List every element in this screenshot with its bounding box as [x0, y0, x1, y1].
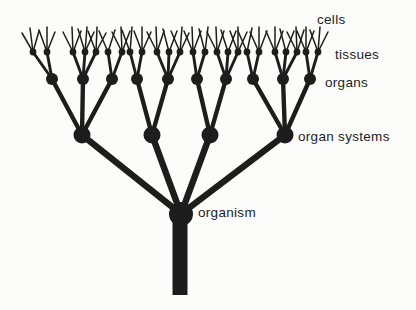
- edge-system-to-organ: [82, 79, 112, 135]
- edge-tissue-to-cell: [78, 29, 85, 52]
- label-organism: organism: [198, 205, 256, 220]
- edge-system-to-organ: [137, 79, 152, 135]
- label-organ-systems: organ systems: [298, 129, 390, 144]
- organ-system-node: [74, 127, 91, 144]
- biological-organization-figure: cells tissues organs organ systems organ…: [0, 0, 416, 310]
- tissue-node: [177, 49, 184, 56]
- tissue-node: [190, 49, 197, 56]
- tissue-node: [303, 49, 310, 56]
- edge-tissue-to-cell: [221, 30, 228, 52]
- organism-node: [169, 202, 193, 226]
- edge-system-to-organ: [253, 79, 285, 135]
- edge-tissue-to-cell: [96, 27, 97, 52]
- edge-system-to-organ: [210, 79, 226, 135]
- tissue-node: [294, 49, 301, 56]
- tissue-node: [272, 49, 279, 56]
- edge-tissue-to-cell: [310, 30, 318, 52]
- tissue-node: [105, 49, 112, 56]
- edge-tissue-to-cell: [192, 27, 193, 52]
- organ-node: [191, 73, 203, 85]
- label-organs: organs: [325, 75, 368, 90]
- organ-node: [304, 73, 316, 85]
- edge-system-to-organ: [197, 79, 210, 135]
- organ-node: [277, 73, 289, 85]
- organ-node: [77, 73, 89, 85]
- tissue-node: [283, 49, 290, 56]
- tissue-node: [315, 49, 322, 56]
- tissue-node: [202, 49, 209, 56]
- edge-tissue-to-cell: [39, 30, 47, 52]
- tissue-node: [44, 49, 51, 56]
- tissue-node: [30, 49, 37, 56]
- organ-node: [131, 73, 143, 85]
- organ-system-node: [277, 127, 294, 144]
- edge-tissue-to-cell: [72, 27, 73, 52]
- edge-system-to-organ: [152, 79, 168, 135]
- organ-node: [106, 73, 118, 85]
- tissue-node: [256, 49, 263, 56]
- organ-node: [46, 73, 58, 85]
- edge-tissue-to-cell: [108, 30, 115, 52]
- edge-tissue-to-cell: [266, 31, 275, 52]
- tissue-node: [225, 49, 232, 56]
- tissue-node: [244, 49, 251, 56]
- organ-node: [247, 73, 259, 85]
- edge-tissue-to-cell: [156, 27, 157, 52]
- tissue-node: [139, 49, 146, 56]
- edge-system-to-organ: [285, 79, 310, 135]
- tissue-node: [93, 49, 100, 56]
- edge-tissue-to-cell: [205, 27, 208, 52]
- tissue-node: [70, 49, 77, 56]
- edge-tissue-to-cell: [99, 31, 108, 52]
- edge-tissue-to-cell: [216, 27, 217, 52]
- tissue-node: [214, 49, 221, 56]
- organ-system-node: [144, 127, 161, 144]
- tissue-node: [235, 49, 242, 56]
- tissue-node: [119, 49, 126, 56]
- tissue-node: [166, 49, 173, 56]
- organ-system-node: [202, 127, 219, 144]
- trunk: [173, 214, 188, 295]
- tissue-node: [154, 49, 161, 56]
- label-tissues: tissues: [335, 47, 379, 62]
- label-cells: cells: [317, 12, 346, 27]
- organ-node: [162, 73, 174, 85]
- edge-tissue-to-cell: [163, 29, 169, 52]
- edge-tissue-to-cell: [199, 29, 205, 52]
- organ-node: [220, 73, 232, 85]
- tissue-node: [82, 49, 89, 56]
- edge-system-to-organ: [52, 79, 82, 135]
- tissue-node: [127, 49, 134, 56]
